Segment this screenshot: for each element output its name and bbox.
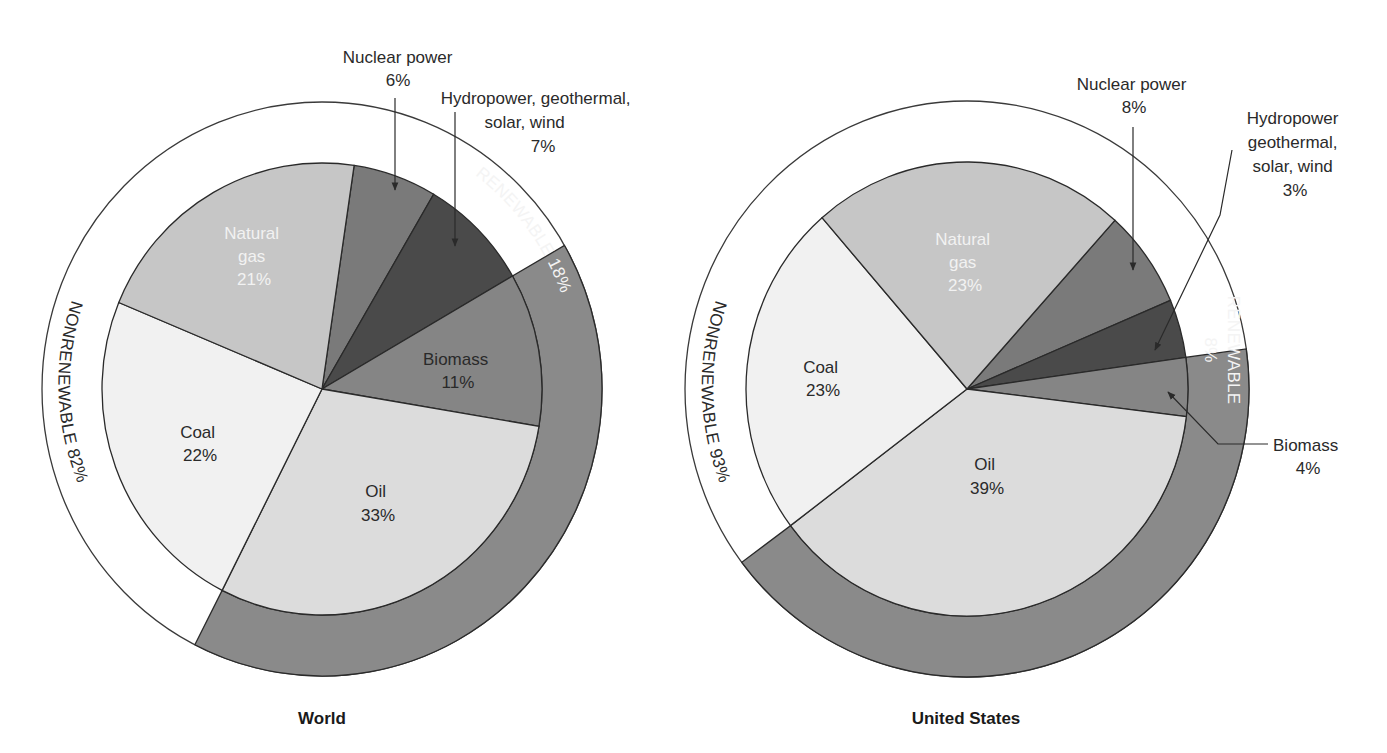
world-chart-title: World	[298, 709, 346, 728]
world-pie-wedges	[102, 163, 542, 615]
world-nonrenewable-label: NONRENEWABLE 82%	[54, 299, 92, 485]
us-label-biomass: Biomass 4%	[1273, 436, 1343, 478]
us-label-nuclear: Nuclear power 8%	[1077, 75, 1191, 117]
us-label-hydro: Hydropower geothermal, solar, wind 3%	[1247, 109, 1343, 200]
world-chart: Natural gas 21% Coal 22% Oil 33% Biomass…	[42, 48, 635, 728]
world-label-nuclear: Nuclear power 6%	[343, 48, 457, 90]
us-renewable-pct: 8%	[1201, 337, 1220, 362]
us-renewable-label: RENEWABLE	[1224, 296, 1243, 405]
us-chart: Natural gas 23% Coal 23% Oil 39% Nuclear…	[685, 75, 1343, 728]
us-chart-title: United States	[912, 709, 1021, 728]
us-nonrenewable-label: NONRENEWABLE 93%	[698, 299, 735, 485]
energy-consumption-figure: Natural gas 21% Coal 22% Oil 33% Biomass…	[0, 0, 1387, 753]
